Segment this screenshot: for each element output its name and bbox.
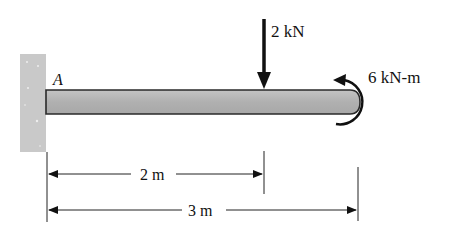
fixed-wall-support: [20, 54, 46, 152]
dimension-2m: 2 m: [49, 166, 262, 183]
dimension-2m-label: 2 m: [140, 166, 165, 183]
dimension-3m-label: 3 m: [188, 202, 213, 219]
beam-diagram: A 2 kN 6 kN-m 2 m 3 m: [0, 0, 455, 244]
dimension-3m: 3 m: [49, 202, 356, 219]
point-load-arrow-icon: [257, 19, 271, 89]
beam: [46, 90, 360, 114]
moment-label: 6 kN-m: [368, 68, 420, 87]
support-label-a: A: [52, 71, 63, 88]
point-load-label: 2 kN: [271, 22, 305, 41]
